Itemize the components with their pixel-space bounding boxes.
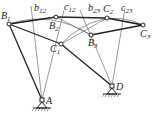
label-d: D [115, 81, 124, 92]
link-b3-c3 [91, 25, 143, 35]
label-b2: B2 [49, 20, 59, 33]
label-b23: b23 [88, 2, 101, 15]
joint-c2 [105, 16, 109, 20]
joint-c1 [59, 42, 63, 46]
label-c2: C2 [103, 3, 114, 16]
link-b2-c2 [56, 17, 107, 18]
label-b1: B1 [1, 10, 11, 23]
label-c3: C3 [140, 28, 151, 41]
label-c12: c12 [64, 1, 76, 14]
joint-c3 [141, 23, 145, 27]
linkage-diagram: B1 b12 c12 b23 C2 c23 B2 B3 C3 C1 A D [0, 0, 152, 116]
link-c1-d [61, 44, 112, 86]
joint-b2 [54, 15, 58, 19]
label-c1: C1 [50, 43, 60, 56]
label-c23: c23 [121, 2, 133, 15]
label-b12: b12 [34, 2, 47, 15]
label-b3: B3 [88, 37, 98, 50]
label-a: A [45, 95, 53, 106]
